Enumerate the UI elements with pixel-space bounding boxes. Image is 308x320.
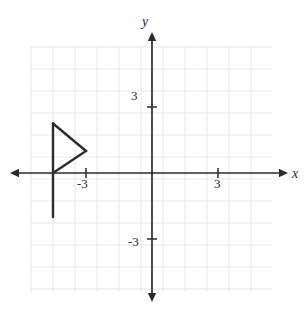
y-tick-label-pos3: 3 bbox=[131, 88, 138, 104]
axes bbox=[10, 32, 288, 302]
y-axis-bottom-arrow-icon bbox=[148, 293, 156, 302]
plot-canvas bbox=[0, 0, 308, 320]
y-tick-label-neg3: -3 bbox=[128, 234, 139, 250]
y-axis-label: y bbox=[142, 14, 148, 30]
x-axis-label: x bbox=[292, 166, 298, 182]
flag-triangle bbox=[53, 124, 86, 174]
x-axis-left-arrow-icon bbox=[10, 169, 19, 177]
plotted-shapes bbox=[53, 124, 86, 218]
x-axis-right-arrow-icon bbox=[279, 169, 288, 177]
x-tick-label-neg3: -3 bbox=[77, 176, 88, 192]
y-axis-top-arrow-icon bbox=[148, 32, 156, 41]
x-tick-label-pos3: 3 bbox=[214, 176, 221, 192]
coordinate-plane-figure: y x -3 3 3 -3 bbox=[0, 0, 308, 320]
